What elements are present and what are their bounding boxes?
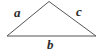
side-label-c: c bbox=[76, 5, 82, 18]
triangle-figure: a c b bbox=[0, 0, 103, 53]
side-label-b: b bbox=[47, 38, 54, 51]
side-label-a: a bbox=[14, 6, 21, 19]
